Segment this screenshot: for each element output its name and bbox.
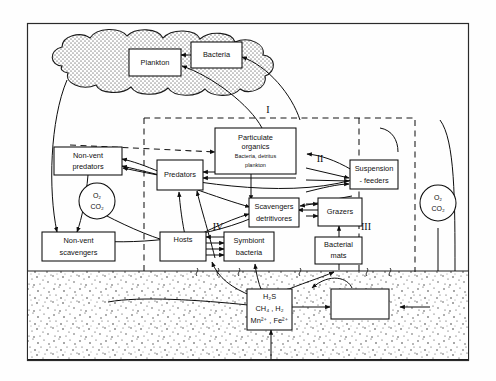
- chemicals-line1: H₂S: [263, 292, 276, 301]
- node-suspension-feeders[interactable]: Suspension - feeders: [350, 160, 398, 189]
- node-bacterial-mats-line1: Bacterial: [324, 240, 353, 249]
- node-nonvent-scavengers-line2: scavengers: [60, 248, 98, 257]
- node-bacterial-mats[interactable]: Bacterial mats: [315, 237, 362, 264]
- gas-exchange-right[interactable]: O₂ CO₂: [420, 185, 456, 221]
- node-vent-chemicals[interactable]: H₂S CH₄ , H₂ Mn²⁺ , Fe²⁺: [247, 289, 292, 330]
- node-nonvent-scavengers-line1: Non-vent: [64, 236, 94, 245]
- roman-numeral-II: II: [317, 153, 324, 164]
- node-nonvent-predators-line2: predators: [72, 162, 104, 171]
- node-suspension-line1: Suspension: [355, 164, 394, 173]
- node-particulate-line2: organics: [242, 142, 270, 151]
- chemicals-line3: Mn²⁺ , Fe²⁺: [251, 316, 289, 325]
- node-nonvent-predators[interactable]: Non-vent predators: [54, 147, 122, 175]
- node-suspension-line2: - feeders: [359, 176, 388, 185]
- node-nonvent-scavengers[interactable]: Non-vent scavengers: [42, 232, 115, 261]
- node-symbiont-line2: bacteria: [236, 248, 263, 257]
- node-symbiont-bacteria[interactable]: Symbiont bacteria: [224, 232, 274, 261]
- node-bacteria-label: Bacteria: [203, 50, 231, 59]
- node-hosts[interactable]: Hosts: [160, 232, 206, 261]
- roman-numeral-I: I: [266, 104, 269, 115]
- gas-exchange-left[interactable]: O₂ CO₂: [79, 183, 115, 219]
- diagram-canvas: I II III IV Plankton Bacteria Particulat…: [0, 0, 496, 381]
- node-scavengers-detritivores[interactable]: Scavengers detritivores: [249, 198, 299, 227]
- gas-right-line2: CO₂: [431, 205, 445, 212]
- node-scavengers-line1: Scavengers: [254, 202, 293, 211]
- node-scavengers-line2: detritivores: [256, 214, 292, 223]
- node-grazers-label: Grazers: [327, 207, 354, 216]
- node-hosts-label: Hosts: [174, 235, 193, 244]
- node-plankton-label: Plankton: [141, 58, 170, 67]
- node-plankton[interactable]: Plankton: [129, 49, 181, 76]
- node-bacterial-mats-line2: mats: [330, 251, 346, 260]
- gas-left-line1: O₂: [93, 192, 101, 199]
- node-particulate-sub2: plankton: [245, 162, 266, 168]
- chemicals-line2: CH₄ , H₂: [255, 304, 283, 313]
- gas-right-line1: O₂: [434, 194, 442, 201]
- node-bacteria[interactable]: Bacteria: [191, 42, 242, 68]
- node-predators[interactable]: Predators: [157, 160, 203, 190]
- node-grazers[interactable]: Grazers: [318, 198, 362, 226]
- node-particulate-organics[interactable]: Particulate organics Bacteria, detritus …: [215, 128, 296, 174]
- node-particulate-sub1: Bacteria, detritus: [235, 153, 277, 159]
- node-symbiont-line1: Symbiont: [234, 236, 265, 245]
- node-predators-label: Predators: [164, 170, 196, 179]
- node-particulate-line1: Particulate: [238, 133, 273, 142]
- node-nonvent-predators-line1: Non-vent: [73, 151, 103, 160]
- roman-numeral-IV: IV: [213, 221, 224, 232]
- node-subsurface-bacteria[interactable]: [331, 289, 389, 319]
- ecosystem-flow-diagram: I II III IV Plankton Bacteria Particulat…: [0, 0, 496, 381]
- gas-left-line2: CO₂: [90, 203, 104, 210]
